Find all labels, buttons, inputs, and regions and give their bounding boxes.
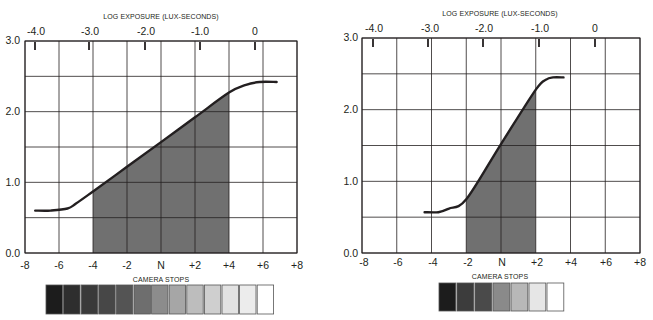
stop-tick-label: +6: [257, 259, 269, 271]
grid-lines: [25, 41, 297, 253]
gray-swatch: [169, 285, 185, 314]
log-exposure-tick-labels: -4.0 -3.0 -2.0 -1.0 0: [365, 22, 598, 34]
log-exposure-tick-marks: [373, 39, 595, 47]
density-tick-label: 1.0: [5, 176, 20, 188]
gray-swatch: [187, 285, 203, 314]
stop-tick-label: -4: [88, 259, 97, 271]
log-tick-label: -4.0: [365, 22, 383, 34]
plot-area: [362, 38, 640, 253]
stop-tick-labels: -8 -6 -4 -2 N +2 +4 +6 +8: [20, 259, 303, 271]
log-tick-label: -1.0: [531, 22, 549, 34]
stop-tick-label: -4: [428, 256, 437, 268]
log-tick-label: 0: [592, 22, 598, 34]
density-tick-label: 0.0: [5, 247, 20, 259]
stop-tick-label: +6: [600, 256, 612, 268]
stop-tick-label: +4: [565, 256, 577, 268]
shaded-exposure-range: [35, 82, 276, 253]
chart-left-low-contrast: LOG EXPOSURE (LUX-SECONDS) -4.0 -3.0 -2.…: [5, 13, 303, 314]
gray-swatch: [511, 283, 528, 311]
density-tick-label: 3.0: [5, 34, 20, 46]
gray-swatch: [46, 285, 62, 314]
plot-area: [25, 41, 297, 253]
figure-canvas: LOG EXPOSURE (LUX-SECONDS) -4.0 -3.0 -2.…: [0, 0, 653, 320]
gray-swatch: [81, 285, 97, 314]
stop-tick-label: -6: [393, 256, 402, 268]
log-tick-label: -3.0: [421, 22, 439, 34]
log-exposure-tick-marks: [35, 42, 255, 50]
log-tick-label: -1.0: [191, 25, 209, 37]
gray-swatch: [457, 283, 474, 311]
gray-swatch: [529, 283, 546, 311]
gray-swatch: [240, 285, 256, 314]
stop-tick-label: N: [157, 259, 165, 271]
gray-scale-strip: [439, 283, 564, 311]
density-tick-label: 0.0: [343, 247, 358, 259]
stop-tick-label: -8: [20, 259, 29, 271]
gray-swatch: [152, 285, 168, 314]
gray-swatch: [204, 285, 220, 314]
top-axis-title: LOG EXPOSURE (LUX-SECONDS): [103, 13, 218, 21]
log-tick-label: -3.0: [81, 25, 99, 37]
gray-swatch: [547, 283, 564, 311]
gray-swatch: [64, 285, 80, 314]
gray-scale-strip: [46, 285, 274, 314]
gray-swatch: [134, 285, 150, 314]
density-tick-label: 1.0: [343, 175, 358, 187]
log-tick-label: -2.0: [137, 25, 155, 37]
density-tick-labels: 3.0 2.0 1.0 0.0: [343, 31, 358, 259]
top-axis-title: LOG EXPOSURE (LUX-SECONDS): [442, 10, 557, 18]
bottom-axis-title: CAMERA STOPS: [472, 273, 529, 280]
gray-swatch: [257, 285, 273, 314]
gray-swatch: [475, 283, 492, 311]
stop-tick-label: -8: [359, 256, 368, 268]
bottom-axis-title: CAMERA STOPS: [133, 276, 190, 283]
stop-tick-label: +8: [291, 259, 303, 271]
log-exposure-tick-labels: -4.0 -3.0 -2.0 -1.0 0: [27, 25, 258, 37]
stop-tick-label: +2: [189, 259, 201, 271]
density-tick-labels: 3.0 2.0 1.0 0.0: [5, 34, 20, 259]
gray-swatch: [116, 285, 132, 314]
stop-tick-label: +2: [531, 256, 543, 268]
stop-tick-label: +4: [223, 259, 235, 271]
log-tick-label: 0: [252, 25, 258, 37]
shaded-exposure-range: [425, 77, 564, 253]
density-tick-label: 3.0: [343, 31, 358, 43]
stop-tick-label: +8: [634, 256, 646, 268]
log-tick-label: -4.0: [27, 25, 45, 37]
density-tick-label: 2.0: [343, 103, 358, 115]
density-tick-label: 2.0: [5, 105, 20, 117]
gray-swatch: [99, 285, 115, 314]
gray-swatch: [493, 283, 510, 311]
stop-tick-labels: -8 -6 -4 -2 N +2 +4 +6 +8: [359, 256, 646, 268]
gray-swatch: [222, 285, 238, 314]
stop-tick-label: -2: [463, 256, 472, 268]
log-tick-label: -2.0: [475, 22, 493, 34]
chart-right-high-contrast: LOG EXPOSURE (LUX-SECONDS) -4.0 -3.0 -2.…: [343, 10, 646, 311]
gray-swatch: [439, 283, 456, 311]
stop-tick-label: N: [498, 256, 506, 268]
stop-tick-label: -2: [122, 259, 131, 271]
stop-tick-label: -6: [54, 259, 63, 271]
